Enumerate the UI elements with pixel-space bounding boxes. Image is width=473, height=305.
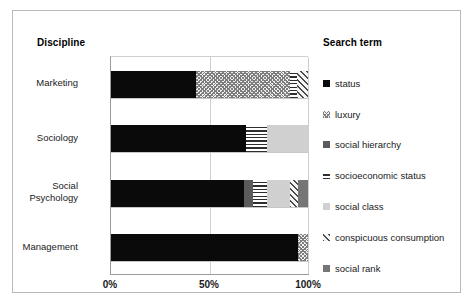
x-axis-line bbox=[110, 274, 309, 275]
legend-label: socioeconomic status bbox=[335, 170, 426, 181]
legend-swatch-icon bbox=[323, 111, 330, 118]
category-label: Social Psychology bbox=[29, 180, 78, 204]
legend: statusluxurysocial hierarchysocioeconomi… bbox=[323, 68, 473, 284]
x-tick-label: 0% bbox=[103, 279, 117, 290]
stacked-bar[interactable] bbox=[111, 71, 308, 98]
bar-segment-luxury[interactable] bbox=[196, 71, 290, 98]
bar-segment-status[interactable] bbox=[111, 71, 196, 98]
legend-swatch-icon bbox=[323, 234, 330, 241]
legend-swatch-icon bbox=[323, 80, 330, 87]
category-label: Marketing bbox=[36, 77, 78, 89]
bar-row bbox=[111, 221, 308, 276]
x-tick-label: 100% bbox=[295, 279, 321, 290]
x-tick-label: 50% bbox=[199, 279, 219, 290]
bar-segment-social-rank[interactable] bbox=[298, 180, 308, 207]
legend-item[interactable]: social class bbox=[323, 191, 473, 222]
bar-segment-luxury[interactable] bbox=[298, 234, 308, 261]
stacked-bar[interactable] bbox=[111, 234, 308, 261]
bar-segment-status[interactable] bbox=[111, 180, 244, 207]
legend-label: status bbox=[335, 78, 360, 89]
discipline-column-heading: Discipline bbox=[37, 37, 85, 48]
bar-segment-conspicuous-consumption[interactable] bbox=[297, 71, 308, 98]
bar-segment-socioeconomic-status[interactable] bbox=[246, 125, 267, 152]
legend-item[interactable]: social rank bbox=[323, 253, 473, 284]
bar-segment-status[interactable] bbox=[111, 234, 298, 261]
legend-item[interactable]: status bbox=[323, 68, 473, 99]
stacked-bar[interactable] bbox=[111, 180, 308, 207]
bar-row bbox=[111, 112, 308, 167]
chart-frame: Discipline Search term MarketingSociolog… bbox=[12, 10, 461, 293]
stacked-bar[interactable] bbox=[111, 125, 308, 152]
legend-swatch-icon bbox=[323, 172, 330, 179]
bar-segment-conspicuous-consumption[interactable] bbox=[290, 180, 298, 207]
bar-row bbox=[111, 57, 308, 112]
legend-label: luxury bbox=[335, 109, 360, 120]
legend-item[interactable]: social hierarchy bbox=[323, 130, 473, 161]
legend-label: social hierarchy bbox=[335, 139, 401, 150]
legend-item[interactable]: luxury bbox=[323, 99, 473, 130]
bar-segment-socioeconomic-status[interactable] bbox=[253, 180, 267, 207]
bar-segment-social-class[interactable] bbox=[267, 180, 290, 207]
search-term-column-heading: Search term bbox=[323, 37, 382, 48]
legend-swatch-icon bbox=[323, 203, 330, 210]
legend-label: social class bbox=[335, 201, 384, 212]
legend-swatch-icon bbox=[323, 141, 330, 148]
legend-swatch-icon bbox=[323, 265, 330, 272]
bar-segment-socioeconomic-status[interactable] bbox=[290, 71, 297, 98]
legend-item[interactable]: conspicuous consumption bbox=[323, 222, 473, 253]
legend-label: social rank bbox=[335, 263, 380, 274]
legend-label: conspicuous consumption bbox=[335, 232, 444, 243]
bar-row bbox=[111, 166, 308, 221]
legend-item[interactable]: socioeconomic status bbox=[323, 160, 473, 191]
category-label: Sociology bbox=[37, 132, 78, 144]
gridline-100-percent bbox=[308, 57, 309, 274]
bar-segment-social-class[interactable] bbox=[267, 125, 308, 152]
bar-segment-status[interactable] bbox=[111, 125, 246, 152]
bar-segment-social-hierarchy[interactable] bbox=[244, 180, 253, 207]
category-label: Management bbox=[23, 241, 78, 253]
plot-area bbox=[110, 56, 308, 274]
